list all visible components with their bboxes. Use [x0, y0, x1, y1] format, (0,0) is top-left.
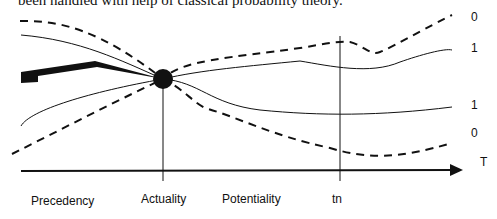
axis-label-T: T: [480, 155, 487, 169]
upper-solid-curve: [21, 35, 452, 79]
time-possibility-diagram: [0, 0, 497, 219]
time-axis: [21, 170, 452, 171]
axis-arrowhead-icon: [450, 164, 463, 176]
label-potentiality: Potentiality: [222, 192, 281, 206]
lower-dashed-boundary: [12, 79, 452, 156]
right-label-1-bottom: 1: [471, 98, 478, 112]
label-tn: tn: [332, 192, 342, 206]
label-actuality: Actuality: [141, 192, 186, 206]
right-label-1-top: 1: [471, 41, 478, 55]
label-precedency: Precedency: [31, 194, 94, 208]
right-label-0-bottom: 0: [471, 126, 478, 140]
right-label-0-top: 0: [471, 10, 478, 24]
actuality-node-icon: [153, 69, 173, 89]
